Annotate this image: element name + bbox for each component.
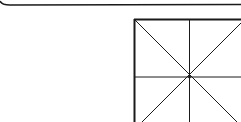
top-rule-line [0, 1, 241, 5]
grid-diagonal-main [135, 20, 237, 122]
grid-center-dot [188, 76, 191, 79]
grid-diagram [0, 0, 241, 122]
practice-grid [134, 19, 241, 122]
grid-diagonal-anti [142, 20, 241, 122]
